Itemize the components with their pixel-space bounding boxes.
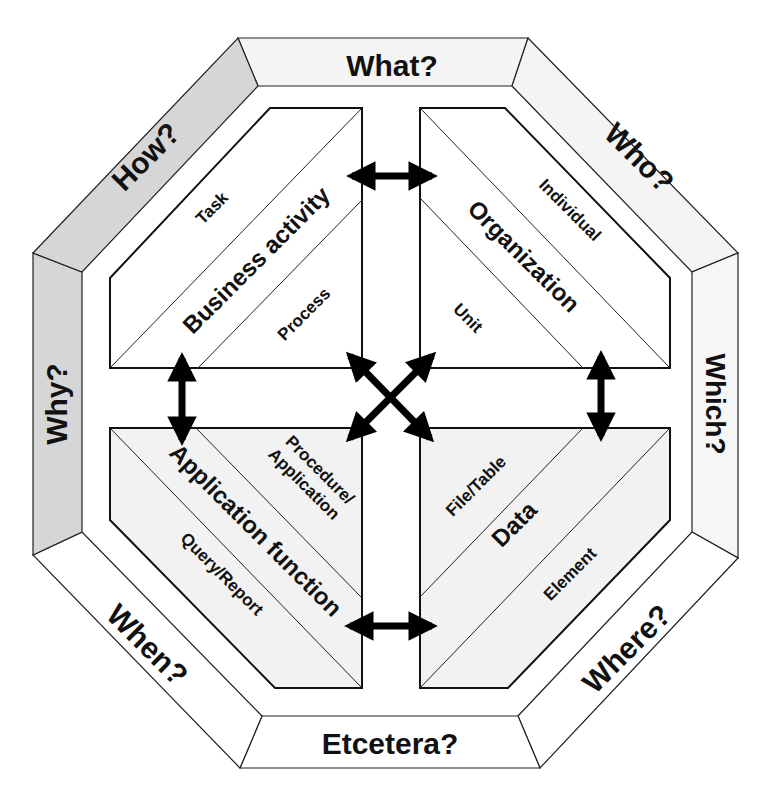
- octagon-diagram: What? Who? Which? Where? Etcetera? When?…: [0, 0, 760, 791]
- label-why: Why?: [40, 363, 73, 445]
- label-etcetera: Etcetera?: [322, 727, 459, 760]
- label-which: Which?: [700, 353, 731, 454]
- label-what: What?: [346, 49, 438, 82]
